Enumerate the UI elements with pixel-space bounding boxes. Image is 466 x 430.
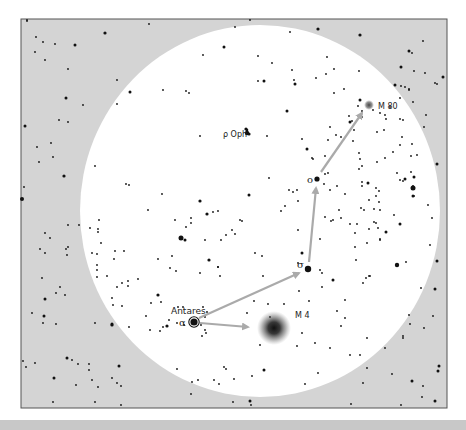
star	[411, 143, 413, 145]
star	[368, 228, 370, 230]
star	[59, 286, 61, 288]
star	[438, 365, 441, 368]
star	[395, 263, 399, 267]
star	[421, 396, 423, 398]
star	[220, 239, 222, 241]
star	[362, 282, 364, 284]
star	[321, 272, 323, 274]
star	[111, 297, 113, 299]
star	[402, 180, 404, 182]
star	[436, 163, 439, 166]
star	[434, 400, 437, 403]
star	[409, 323, 411, 325]
label-omicron: ο	[307, 174, 313, 185]
star	[358, 168, 360, 170]
star	[308, 300, 310, 302]
star	[118, 365, 121, 368]
star	[416, 154, 418, 156]
star	[402, 119, 404, 121]
star	[379, 209, 381, 211]
star	[429, 244, 431, 246]
star	[361, 116, 363, 118]
star	[349, 121, 352, 124]
star	[399, 144, 401, 146]
star	[375, 222, 377, 224]
star	[128, 184, 130, 186]
star	[137, 278, 139, 280]
star	[49, 237, 51, 239]
star	[399, 223, 402, 226]
star	[373, 208, 375, 210]
star	[335, 134, 337, 136]
star	[404, 86, 406, 88]
star	[201, 335, 203, 337]
star	[396, 172, 398, 174]
star	[262, 275, 264, 277]
star	[39, 248, 41, 250]
star	[52, 156, 54, 158]
star	[75, 384, 77, 386]
star	[160, 301, 162, 303]
star	[259, 344, 261, 346]
star	[58, 119, 60, 121]
star	[385, 231, 388, 234]
star	[97, 228, 99, 230]
star	[26, 19, 28, 21]
star	[223, 366, 225, 368]
star	[297, 229, 299, 231]
star	[54, 43, 56, 45]
star	[188, 92, 190, 94]
star	[202, 54, 204, 56]
star	[128, 326, 130, 328]
star	[120, 404, 122, 406]
star	[361, 185, 363, 187]
star	[35, 36, 37, 38]
star	[261, 255, 263, 257]
star	[343, 88, 345, 90]
star	[288, 189, 290, 191]
star	[306, 148, 309, 151]
cluster-m4	[257, 311, 291, 345]
star	[110, 323, 113, 326]
star	[324, 155, 326, 157]
star	[297, 200, 299, 202]
star	[249, 19, 251, 21]
star	[376, 131, 378, 133]
star	[361, 181, 363, 183]
star	[250, 404, 252, 406]
star	[359, 354, 361, 356]
star	[363, 209, 365, 211]
star	[116, 286, 118, 288]
star	[348, 115, 350, 117]
star	[100, 242, 102, 244]
star	[404, 178, 407, 181]
star	[400, 66, 403, 69]
star	[375, 187, 377, 189]
star	[425, 114, 427, 116]
star	[338, 209, 340, 211]
star	[399, 97, 401, 99]
star	[358, 152, 360, 154]
star	[116, 103, 118, 105]
star	[113, 258, 115, 260]
star	[217, 266, 219, 268]
star	[422, 40, 424, 42]
star	[394, 84, 397, 87]
star	[391, 373, 393, 375]
star	[291, 69, 293, 71]
star	[378, 201, 380, 203]
star	[175, 270, 177, 272]
star	[434, 288, 437, 291]
star	[344, 299, 346, 301]
star	[393, 214, 395, 216]
star	[169, 267, 171, 269]
star	[176, 322, 178, 324]
star	[365, 277, 367, 279]
star	[402, 335, 404, 337]
star	[44, 59, 46, 61]
star	[333, 68, 335, 70]
label-sigma: σ	[297, 259, 304, 270]
star-antares	[190, 318, 197, 325]
star	[336, 185, 338, 187]
star	[34, 362, 36, 364]
